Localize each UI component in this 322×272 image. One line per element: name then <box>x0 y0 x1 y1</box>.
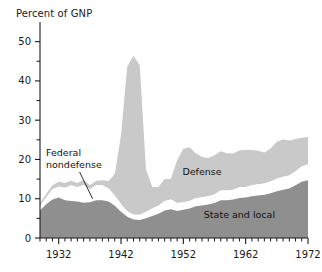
y-axis <box>35 22 40 238</box>
x-tick-labels: 19321942195219621972 <box>46 249 321 260</box>
defense-label: Defense <box>182 166 221 177</box>
y-tick-labels: 01020304050 <box>18 36 31 243</box>
y-tick-label: 40 <box>18 75 31 86</box>
federal-nondefense-label-line2: nondefense <box>46 159 102 170</box>
chart-page: Percent of GNP 01020304050 1932194219521… <box>0 0 322 272</box>
x-tick-label: 1962 <box>233 249 258 260</box>
y-tick-label: 0 <box>25 233 31 244</box>
x-tick-label: 1972 <box>295 249 320 260</box>
x-tick-label: 1942 <box>108 249 133 260</box>
area-chart: 01020304050 19321942195219621972 Federal… <box>0 0 322 272</box>
y-tick-label: 20 <box>18 154 31 165</box>
y-tick-label: 10 <box>18 193 31 204</box>
x-tick-label: 1952 <box>171 249 196 260</box>
state-and-local-label: State and local <box>204 209 275 220</box>
y-tick-label: 30 <box>18 115 31 126</box>
federal-nondefense-label-line1: Federal <box>46 147 81 158</box>
y-tick-label: 50 <box>18 36 31 47</box>
x-tick-label: 1932 <box>46 249 71 260</box>
x-axis <box>40 238 308 244</box>
